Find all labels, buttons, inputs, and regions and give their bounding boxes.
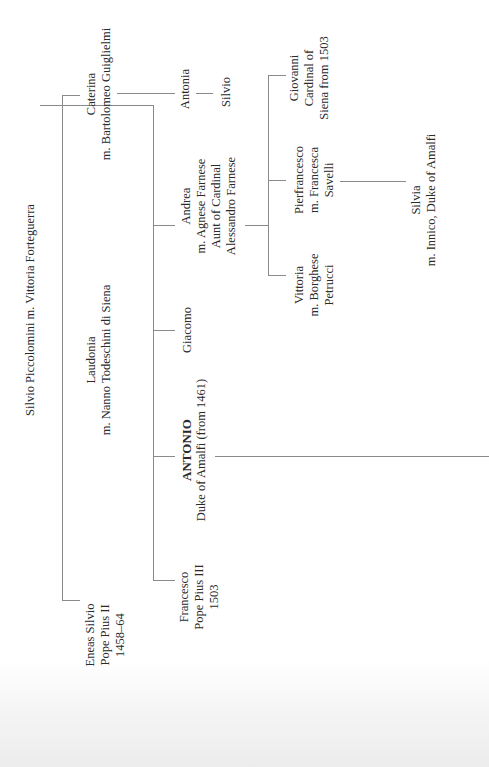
person-eneas-silvio: Eneas Silvio Pope Pius II 1458–64 — [83, 604, 128, 667]
person-pierfrancesco: Pierfrancesco m. Francesca Savelli — [292, 146, 337, 214]
connector-antonio-descendants — [215, 456, 489, 457]
connector-andrea-to-children — [245, 225, 268, 226]
connector-to-giovanni — [268, 75, 286, 76]
person-andrea: Andrea m. Agnese Farnese Aunt of Cardina… — [179, 157, 239, 255]
connector-laudonia-children-spine — [153, 105, 154, 581]
root-couple-label: Silvio Piccolomini m. Vittoria Forteguer… — [23, 204, 38, 416]
person-vittoria: Vittoria m. Borghese Petrucci — [292, 254, 337, 317]
person-silvia: Silvia m. Innico, Duke of Amalfi — [409, 134, 439, 267]
connector-to-giacomo — [153, 330, 175, 331]
person-caterina: Caterina m. Bartolomeo Guiglielmi — [84, 28, 114, 160]
connector-andrea-children-spine — [268, 75, 269, 276]
connector-antonia-to-silvio — [196, 93, 213, 94]
connector-to-caterina — [62, 95, 80, 96]
person-silvio: Silvio — [219, 77, 234, 107]
connector-to-andrea — [153, 225, 175, 226]
connector-to-antonio — [153, 456, 175, 457]
connector-pierfrancesco-to-silvia — [340, 181, 406, 182]
person-francesco: Francesco Pope Pius III 1503 — [177, 564, 222, 629]
person-antonio: ANTONIO Duke of Amalfi (from 1461) — [179, 379, 209, 521]
connector-caterina-to-antonia — [117, 93, 175, 94]
family-tree-page: Silvio Piccolomini m. Vittoria Forteguer… — [0, 0, 489, 767]
person-antonia: Antonia — [178, 69, 193, 109]
connector-to-pierfrancesco — [268, 180, 286, 181]
person-giacomo: Giacomo — [180, 307, 195, 353]
connector-laudonia-to-children — [117, 105, 153, 106]
connector-to-eneas — [62, 600, 80, 601]
person-giovanni: Giovanni Cardinal of Siena from 1503 — [287, 36, 332, 119]
connector-gen1-spine — [62, 95, 63, 601]
connector-to-vittoria — [268, 275, 286, 276]
connector-to-francesco — [153, 580, 175, 581]
person-laudonia: Laudonia m. Nanno Todeschini di Siena — [84, 285, 114, 436]
